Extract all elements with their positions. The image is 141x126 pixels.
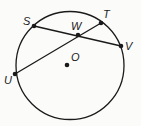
point-s xyxy=(32,24,37,29)
circle-diagram: S T V U W O xyxy=(0,0,141,126)
label-w: W xyxy=(71,20,83,32)
point-v xyxy=(119,44,124,49)
chord-ut xyxy=(15,23,101,74)
label-s: S xyxy=(23,15,31,27)
label-t: T xyxy=(103,8,111,20)
point-w xyxy=(76,33,81,38)
label-u: U xyxy=(4,74,12,86)
label-v: V xyxy=(125,40,134,52)
circle-o xyxy=(16,12,124,120)
label-o: O xyxy=(71,51,80,63)
point-t xyxy=(99,21,104,26)
point-o xyxy=(65,63,70,68)
point-u xyxy=(13,72,18,77)
